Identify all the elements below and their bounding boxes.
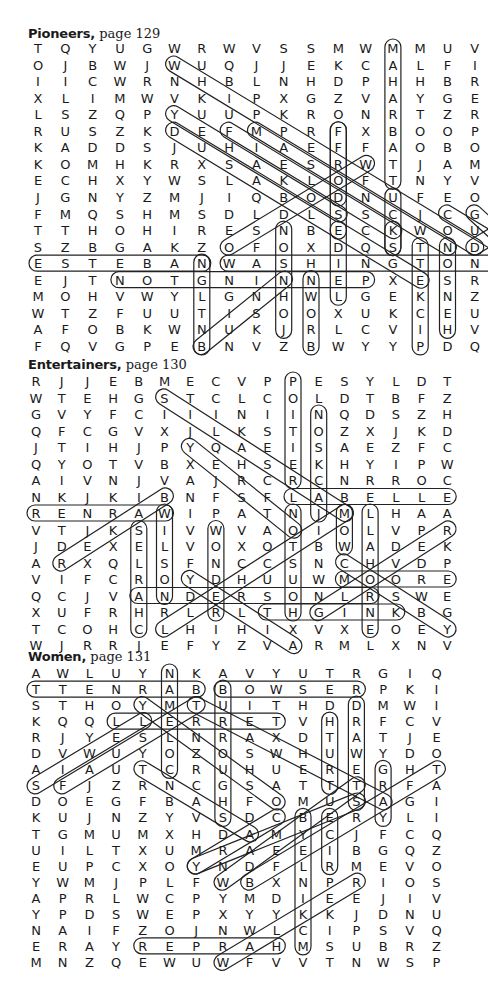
grid-letter: A bbox=[218, 666, 227, 681]
grid-letter: A bbox=[165, 682, 174, 697]
grid-letter: P bbox=[192, 907, 200, 922]
grid-letter: I bbox=[87, 923, 91, 938]
grid-letter: O bbox=[58, 794, 68, 809]
grid-letter: P bbox=[192, 891, 200, 906]
grid-letter: E bbox=[379, 859, 387, 874]
grid-letter: E bbox=[112, 730, 120, 745]
grid-letter: Y bbox=[271, 666, 280, 681]
grid-letter: I bbox=[408, 891, 412, 906]
grid-letter: A bbox=[58, 923, 67, 938]
grid-letter: Y bbox=[218, 891, 227, 906]
grid-letter: T bbox=[58, 698, 67, 713]
grid-letter: P bbox=[59, 907, 67, 922]
grid-letter: E bbox=[432, 730, 440, 745]
grid-letter: B bbox=[192, 682, 201, 697]
grid-letter: J bbox=[193, 923, 198, 938]
grid-letter: Q bbox=[431, 827, 441, 842]
grid-letter: S bbox=[112, 907, 120, 922]
grid-letter: R bbox=[325, 859, 334, 874]
grid-letter: Y bbox=[138, 666, 147, 681]
grid-letter: R bbox=[58, 939, 67, 954]
grid-letter: Z bbox=[432, 843, 441, 858]
grid-letter: M bbox=[84, 827, 95, 842]
grid-letter: D bbox=[405, 746, 415, 761]
grid-letter: T bbox=[325, 666, 334, 681]
grid-letter: N bbox=[58, 955, 68, 970]
grid-letter: I bbox=[435, 810, 439, 825]
grid-letter: T bbox=[271, 698, 280, 713]
grid-letter: K bbox=[299, 907, 308, 922]
grid-letter: Z bbox=[138, 810, 147, 825]
grid-letter: U bbox=[31, 843, 41, 858]
grid-letter: F bbox=[406, 778, 413, 793]
grid-letter: Q bbox=[84, 714, 94, 729]
grid-letter: P bbox=[433, 955, 441, 970]
grid-letter: O bbox=[164, 859, 174, 874]
grid-letter: C bbox=[325, 827, 334, 842]
grid-letter: J bbox=[86, 810, 91, 825]
grid-letter: W bbox=[350, 746, 363, 761]
grid-letter: U bbox=[352, 939, 362, 954]
grid-letter: Y bbox=[191, 859, 200, 874]
grid-letter: D bbox=[325, 698, 335, 713]
grid-letter: S bbox=[326, 939, 334, 954]
grid-letter: F bbox=[379, 714, 386, 729]
grid-letter: W bbox=[136, 891, 149, 906]
grid-letter: F bbox=[139, 794, 146, 809]
grid-letter: J bbox=[353, 907, 358, 922]
grid-letter: I bbox=[408, 666, 412, 681]
grid-letter: D bbox=[84, 907, 94, 922]
grid-letter: R bbox=[218, 730, 227, 745]
grid-letter: B bbox=[218, 682, 227, 697]
grid-letter: D bbox=[271, 891, 281, 906]
grid-letter: R bbox=[138, 939, 147, 954]
grid-letter: V bbox=[299, 714, 308, 729]
grid-letter: M bbox=[297, 794, 308, 809]
grid-letter: P bbox=[59, 891, 67, 906]
grid-letter: T bbox=[31, 682, 40, 697]
grid-letter: P bbox=[192, 939, 200, 954]
grid-letter: Q bbox=[58, 714, 68, 729]
grid-letter: N bbox=[31, 923, 41, 938]
grid-letter: H bbox=[405, 762, 415, 777]
grid-letter: O bbox=[164, 746, 174, 761]
grid-letter: A bbox=[32, 891, 41, 906]
grid-letter: L bbox=[86, 666, 94, 681]
grid-letter: V bbox=[58, 746, 67, 761]
grid-letter: M bbox=[351, 859, 362, 874]
grid-letter: K bbox=[32, 810, 41, 825]
grid-letter: M bbox=[164, 698, 175, 713]
grid-letter: T bbox=[298, 778, 307, 793]
grid-letter: E bbox=[32, 859, 40, 874]
grid-letter: T bbox=[271, 714, 280, 729]
grid-letter: P bbox=[379, 682, 387, 697]
grid-letter: Y bbox=[138, 698, 147, 713]
grid-letter: R bbox=[352, 810, 361, 825]
grid-letter: Y bbox=[111, 939, 120, 954]
grid-letter: T bbox=[378, 730, 387, 745]
grid-letter: F bbox=[112, 923, 119, 938]
grid-letter: D bbox=[351, 698, 361, 713]
grid-letter: Y bbox=[31, 907, 40, 922]
grid-letter: Y bbox=[245, 907, 254, 922]
grid-letter: N bbox=[165, 778, 175, 793]
grid-letter: T bbox=[432, 762, 441, 777]
grid-letter: B bbox=[379, 939, 388, 954]
grid-letter: N bbox=[111, 810, 121, 825]
grid-letter: L bbox=[406, 810, 414, 825]
grid-letter: U bbox=[325, 746, 335, 761]
grid-letter: U bbox=[111, 827, 121, 842]
grid-letter: G bbox=[58, 827, 68, 842]
grid-letter: O bbox=[111, 698, 121, 713]
grid-letter: A bbox=[32, 762, 41, 777]
grid-letter: K bbox=[192, 666, 201, 681]
grid-letter: C bbox=[165, 762, 174, 777]
grid-letter: I bbox=[328, 843, 332, 858]
grid-letter: C bbox=[112, 859, 121, 874]
grid-letter: G bbox=[378, 762, 388, 777]
grid-letter: M bbox=[84, 875, 95, 890]
grid-letter: X bbox=[165, 827, 174, 842]
grid-letter: T bbox=[138, 762, 147, 777]
grid-letter: O bbox=[164, 923, 174, 938]
grid-letter: R bbox=[405, 939, 414, 954]
